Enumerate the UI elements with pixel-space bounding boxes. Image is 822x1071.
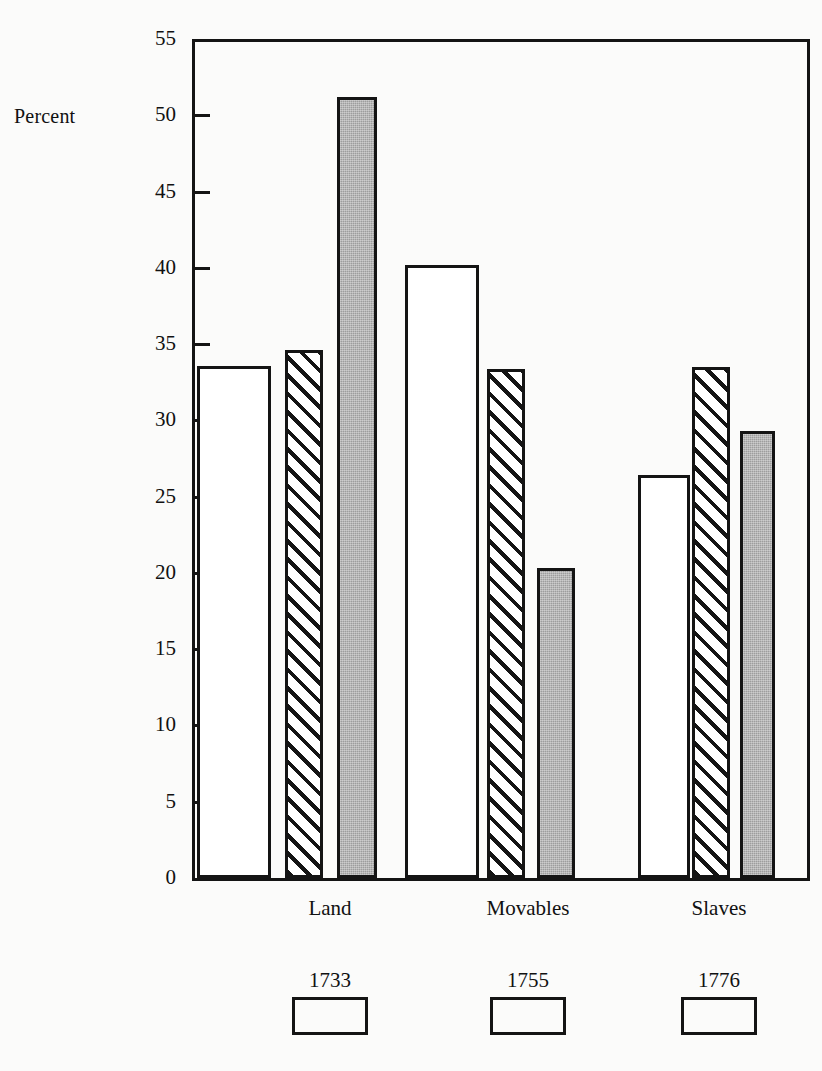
y-axis-tick-label: 0 xyxy=(132,867,176,888)
y-axis-tick xyxy=(195,191,210,194)
y-axis-tick-label: 10 xyxy=(132,714,176,735)
legend-item-1776: 1776 xyxy=(649,968,789,1035)
legend-label-1755: 1755 xyxy=(458,968,598,992)
y-axis-title: Percent xyxy=(14,105,75,128)
legend-label-1733: 1733 xyxy=(260,968,400,992)
y-axis-tick xyxy=(195,343,210,346)
y-axis-tick-label: 20 xyxy=(132,562,176,583)
bar-land-1733 xyxy=(197,366,271,879)
y-axis-tick-labels: 0510152025303540455055 xyxy=(130,39,176,881)
x-axis-label-slaves: Slaves xyxy=(692,896,747,920)
legend-swatch-1776 xyxy=(681,997,757,1035)
y-axis-tick-label: 25 xyxy=(132,486,176,507)
y-axis-tick-label: 30 xyxy=(132,409,176,430)
bar-movables-1733 xyxy=(405,265,479,878)
legend-item-1755: 1755 xyxy=(458,968,598,1035)
x-axis-line xyxy=(192,878,810,881)
y-axis-tick-label: 5 xyxy=(132,791,176,812)
legend-label-1776: 1776 xyxy=(649,968,789,992)
y-axis-tick xyxy=(195,114,210,117)
bar-slaves-1755 xyxy=(692,367,730,878)
plot-frame-right xyxy=(807,39,810,881)
bar-slaves-1776 xyxy=(740,431,775,878)
y-axis-line xyxy=(192,39,195,881)
bar-slaves-1733 xyxy=(638,475,690,878)
y-axis-tick xyxy=(195,267,210,270)
x-axis-label-land: Land xyxy=(308,896,351,920)
y-axis-tick-label: 35 xyxy=(132,333,176,354)
y-axis-tick-label: 15 xyxy=(132,638,176,659)
x-axis-label-movables: Movables xyxy=(487,896,570,920)
plot-frame-top xyxy=(192,39,810,42)
y-axis-tick-label: 45 xyxy=(132,181,176,202)
y-axis-tick-label: 50 xyxy=(132,104,176,125)
bar-movables-1755 xyxy=(487,369,525,878)
bar-land-1755 xyxy=(285,350,323,878)
y-axis-tick-label: 55 xyxy=(132,28,176,49)
bar-movables-1776 xyxy=(537,568,575,878)
plot-area xyxy=(192,39,810,881)
bar-land-1776 xyxy=(337,97,377,878)
chart-legend: 173317551776 xyxy=(0,968,822,1048)
legend-item-1733: 1733 xyxy=(260,968,400,1035)
legend-swatch-1755 xyxy=(490,997,566,1035)
legend-swatch-1733 xyxy=(292,997,368,1035)
chart-page: Percent 0510152025303540455055 LandMovab… xyxy=(0,0,822,1071)
y-axis-tick-label: 40 xyxy=(132,257,176,278)
